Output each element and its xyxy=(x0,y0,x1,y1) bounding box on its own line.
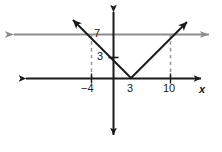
label-x-axis: x xyxy=(199,84,205,95)
label-ten: 10 xyxy=(163,83,175,94)
label-y-three: 3 xyxy=(97,51,103,62)
graph-figure: 7 3 −4 3 10 x xyxy=(0,0,222,152)
y-axis xyxy=(109,12,119,135)
label-x-three: 3 xyxy=(127,83,133,94)
label-seven: 7 xyxy=(94,28,100,39)
graph-canvas xyxy=(0,0,222,152)
label-minus-four: −4 xyxy=(81,83,94,94)
